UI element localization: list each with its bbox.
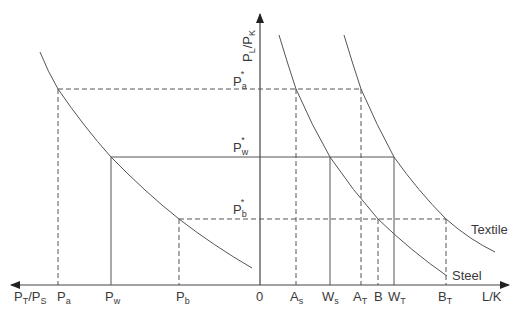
x-tick-pa: Pa	[57, 289, 71, 306]
y-tick-pb-star: Pb*	[233, 197, 247, 219]
origin-label: 0	[256, 289, 263, 304]
y-tick-pa-star: Pa*	[233, 69, 247, 91]
x-tick-ws: Ws	[322, 289, 339, 306]
x-left-axis-label: PT/PS	[14, 289, 46, 306]
x-tick-b: B	[374, 289, 383, 304]
x-tick-bt: BT	[438, 289, 453, 306]
y-tick-pw-star: Pw*	[233, 135, 249, 157]
factor-price-diagram: PL/PK Pa* Pw* Pb* PT/PS Pa Pw Pb 0 As Ws…	[0, 0, 519, 318]
x-tick-pw: Pw	[105, 289, 121, 306]
left-isocost-curve	[40, 52, 252, 268]
x-tick-at: AT	[353, 289, 368, 306]
steel-curve	[279, 35, 447, 276]
x-tick-as: As	[290, 289, 304, 306]
x-tick-wt: WT	[388, 289, 406, 306]
y-axis-label: PL/PK	[240, 30, 257, 62]
x-tick-pb: Pb	[176, 289, 190, 306]
x-right-axis-label: L/K	[482, 289, 502, 304]
textile-label: Textile	[471, 222, 508, 237]
steel-label: Steel	[452, 268, 482, 283]
